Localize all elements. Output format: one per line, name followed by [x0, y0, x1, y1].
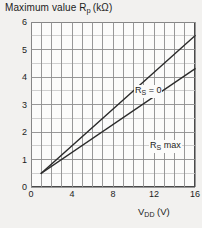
x-tick-label: 8 [110, 190, 115, 199]
series-label-rs-zero-tail: = 0 [146, 85, 161, 95]
series-label-rs-max-tail: max [161, 140, 181, 150]
y-tick-label: 2 [22, 128, 27, 137]
y-tick-label: 3 [22, 100, 27, 109]
y-tick-label: 4 [22, 73, 27, 82]
x-axis-title-unit: (V) [157, 206, 170, 217]
x-tick-label: 16 [190, 190, 200, 199]
y-tick-label: 0 [22, 183, 27, 192]
chart-title-subscript: p [87, 6, 91, 15]
x-tick-label: 4 [69, 190, 74, 199]
chart-title-main: Maximum value R [5, 2, 87, 13]
series-line-1 [41, 69, 195, 174]
chart-figure: Maximum value Rp(kΩ) 0123456 0481216 RS … [0, 0, 202, 228]
x-tick-label: 12 [149, 190, 159, 199]
y-tick-label: 6 [22, 18, 27, 27]
x-axis-title-subscript: DD [144, 211, 154, 218]
series-label-rs-zero: RS = 0 [134, 85, 162, 98]
plot-area: 0123456 0481216 RS = 0 RS max [31, 22, 195, 187]
chart-title: Maximum value Rp(kΩ) [5, 1, 112, 17]
y-tick-label: 1 [22, 155, 27, 164]
chart-title-unit: (kΩ) [93, 2, 113, 13]
y-tick-label: 5 [22, 45, 27, 54]
x-tick-label: 0 [28, 190, 33, 199]
x-axis-title: VDD (V) [138, 206, 170, 220]
data-series-lines [31, 22, 195, 187]
series-label-rs-max: RS max [149, 140, 182, 153]
